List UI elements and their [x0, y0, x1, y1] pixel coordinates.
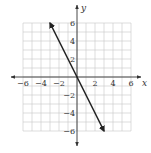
- y-tick-label: 4: [70, 37, 75, 46]
- x-tick-label: 2: [92, 79, 97, 88]
- x-tick-label: 4: [110, 79, 115, 88]
- x-axis-label: x: [142, 78, 147, 88]
- x-tick-label: −4: [35, 79, 47, 88]
- x-tick-label: −6: [17, 79, 29, 88]
- y-tick-label: −4: [63, 109, 75, 118]
- coordinate-plane: −6−4−2246642−2−4−6 x y: [0, 0, 151, 153]
- y-tick-label: 6: [70, 19, 75, 28]
- tick-labels: −6−4−2246642−2−4−6: [17, 19, 133, 136]
- y-axis-label: y: [80, 3, 87, 13]
- y-tick-label: −6: [63, 127, 75, 136]
- y-tick-label: −2: [63, 91, 75, 100]
- x-tick-label: −2: [53, 79, 65, 88]
- x-tick-label: 6: [128, 79, 133, 88]
